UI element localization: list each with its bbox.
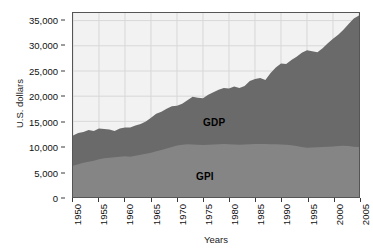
gpi-series-label: GPI [196, 171, 214, 182]
plot-area: GDP GPI [72, 12, 360, 198]
x-tick-mark [281, 198, 282, 202]
x-tick-mark [124, 198, 125, 202]
x-tick-label: 1975 [203, 204, 214, 225]
y-tick-label: 25,000 [29, 65, 58, 76]
x-tick-label: 1985 [255, 204, 266, 225]
x-tick-mark [334, 198, 335, 202]
y-tick-label: 15,000 [29, 116, 58, 127]
x-tick-label: 1995 [308, 204, 319, 225]
x-tick-mark [151, 198, 152, 202]
y-tick-label: 0 [53, 193, 58, 204]
x-tick-label: 2005 [360, 204, 371, 225]
x-tick-mark [360, 198, 361, 202]
x-tick-mark [72, 198, 73, 202]
y-tick-mark [61, 96, 65, 97]
y-tick-mark [61, 147, 65, 148]
x-tick-mark [203, 198, 204, 202]
plot-svg [73, 13, 359, 197]
gdp-gpi-area-chart: U.S. dollars 05,00010,00015,00020,00025,… [0, 0, 373, 252]
y-tick-mark [61, 121, 65, 122]
y-tick-mark [61, 172, 65, 173]
y-tick-mark [61, 19, 65, 20]
x-tick-mark [177, 198, 178, 202]
y-tick-mark [61, 70, 65, 71]
y-tick-label: 10,000 [29, 142, 58, 153]
x-tick-label: 1990 [281, 204, 292, 225]
y-tick-label: 5,000 [34, 167, 58, 178]
x-axis-title: Years [72, 234, 360, 245]
x-tick-label: 1980 [229, 204, 240, 225]
x-tick-label: 1970 [177, 204, 188, 225]
x-tick-mark [255, 198, 256, 202]
gdp-series-label: GDP [203, 117, 225, 128]
x-tick-label: 1965 [151, 204, 162, 225]
y-tick-label: 20,000 [29, 91, 58, 102]
x-tick-mark [308, 198, 309, 202]
x-tick-label: 1955 [98, 204, 109, 225]
x-tick-mark [98, 198, 99, 202]
y-tick-mark [61, 198, 65, 199]
y-axis-tick-labels: 05,00010,00015,00020,00025,00030,00035,0… [0, 0, 66, 252]
x-tick-mark [229, 198, 230, 202]
x-tick-label: 2000 [334, 204, 345, 225]
x-tick-label: 1950 [72, 204, 83, 225]
y-tick-mark [61, 45, 65, 46]
x-tick-label: 1960 [124, 204, 135, 225]
y-tick-label: 30,000 [29, 40, 58, 51]
y-tick-label: 35,000 [29, 14, 58, 25]
